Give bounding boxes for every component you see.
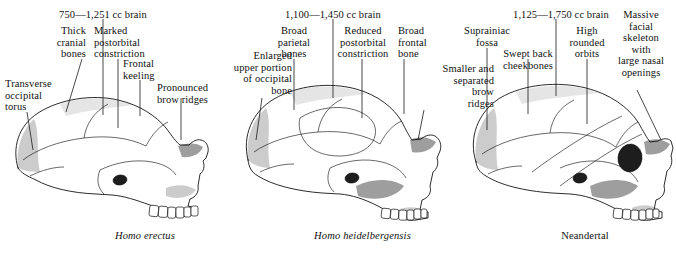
label-erectus-frontal-keeling: Frontal keeling [123,58,179,81]
leader-erectus-torus [27,112,33,150]
label-nean-swept-back-cheekbones: Swept back cheekbones [489,48,567,71]
label-erectus-thick-cranial-bones: Thick cranial bones [30,25,86,60]
label-nean-massive-facial-skeleton: Massive facial skeleton with large nasal… [608,9,674,79]
label-heid-brain-volume: 1,100—1,450 cc brain [248,9,418,21]
leader-nean-facial [637,90,661,140]
caption-neandertal: Neandertal [500,230,670,241]
label-heid-enlarged-occipital: Enlarged upper portion of occipital bone [218,50,292,96]
skull-neandertal-drawing [473,84,673,220]
label-erectus-transverse-occipital-torus: Transverse occipital torus [5,78,69,113]
skull-heidelbergensis-drawing [246,85,440,220]
leader-heid-occipital [256,98,262,140]
label-nean-suprainiac-fossa: Suprainiac fossa [449,25,525,48]
label-heid-broad-frontal-bone: Broad frontal bone [398,25,446,60]
caption-homo-erectus: Homo erectus [60,230,230,241]
label-nean-high-rounded-orbits: High rounded orbits [560,25,614,60]
caption-homo-heidelbergensis: Homo heidelbergensis [275,230,450,241]
leader-heid-brow [418,110,424,140]
skull-comparison-figure: 750—1,251 cc brain Thick cranial bones M… [0,0,676,254]
label-heid-smaller-separated-brow-ridges: Smaller and separated brow ridges [420,63,494,109]
label-erectus-brain-volume: 750—1,251 cc brain [18,9,188,21]
label-heid-reduced-postorbital-constriction: Reduced postorbital constriction [330,25,396,60]
skull-erectus-drawing [16,98,208,219]
label-erectus-postorbital-constriction: Marked postorbital constriction [94,25,176,60]
